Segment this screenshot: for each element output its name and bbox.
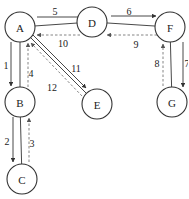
step-2-b-to-c: 2 [5,117,14,162]
edge-f-g [170,42,171,87]
step-1-a-to-b: 1 [4,42,12,86]
step-label: 9 [134,39,139,50]
node-c: C [7,164,37,194]
node-e: E [82,89,112,119]
step-10-d-to-a: 10 [37,35,80,49]
step-label: 5 [53,6,58,17]
edge-d-f [107,23,155,26]
step-5-a-to-d: 5 [37,6,82,18]
node-g: G [157,87,187,117]
step-9-f-to-d: 9 [107,35,157,50]
step-label: 10 [58,38,68,49]
step-label: 3 [30,138,35,149]
node-d: D [77,7,107,37]
step-4-b-to-a: 4 [28,43,34,87]
step-3-c-to-b: 3 [29,118,35,162]
node-label: B [16,97,23,109]
step-label: 2 [5,136,10,147]
step-label: 6 [127,6,132,17]
traversal-diagram: 123456789101112 ADFBEGC [0,0,188,199]
step-label: 7 [185,58,189,69]
step-8-g-to-f: 8 [155,44,164,86]
step-label: 1 [4,60,9,71]
node-label: F [167,22,173,34]
step-label: 12 [47,82,57,93]
node-label: C [18,174,25,186]
node-label: D [88,17,96,29]
node-label: E [94,99,101,111]
edge-a-d [35,23,77,26]
step-label: 11 [71,63,81,74]
step-7-f-to-g: 7 [183,42,188,87]
node-label: A [16,22,24,34]
node-label: G [168,97,176,109]
node-a: A [5,12,35,42]
step-label: 8 [155,58,160,69]
graph-nodes: ADFBEGC [5,7,187,194]
node-f: F [155,12,185,42]
node-b: B [5,87,35,117]
edge-b-c [20,117,21,164]
step-6-d-to-f: 6 [111,6,156,17]
step-label: 4 [29,68,34,79]
